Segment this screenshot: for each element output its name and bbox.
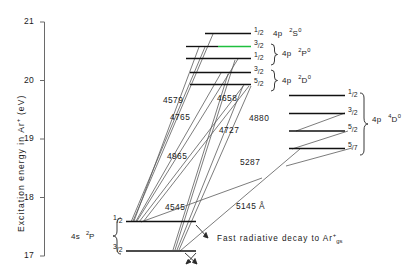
ray-4765 bbox=[134, 47, 199, 221]
group-config-4p-2S0: 4p bbox=[273, 29, 283, 38]
level-label-4p-4D0-1_2: 1/2 bbox=[348, 89, 358, 99]
y-axis-title-unit: (eV) bbox=[16, 95, 26, 115]
ray-4d-b bbox=[292, 131, 348, 149]
group-config-4p-2P0: 4p bbox=[282, 49, 292, 58]
y-tick-label-20: 20 bbox=[24, 76, 34, 85]
wavelength-label-4965: 4965 bbox=[167, 152, 187, 160]
term-sup-right-2S0: 0 bbox=[298, 27, 301, 33]
group-config-4p-4D0: 4p bbox=[372, 115, 382, 124]
group-label-4p-4D0: 4p 4D0 bbox=[372, 114, 401, 124]
wavelength-label-4658: 4658 bbox=[217, 94, 237, 102]
term-sup-right-2D0: 0 bbox=[308, 74, 311, 80]
ray-4579 bbox=[133, 34, 213, 221]
brace-2D0 bbox=[271, 70, 278, 91]
energy-level-diagram: 21 20 19 18 17 Excitation energy in Ar+ … bbox=[0, 0, 412, 274]
level-label-4p-2P0-3_2: 3/2 bbox=[254, 40, 264, 50]
ray-4880 bbox=[139, 85, 244, 222]
level-label-4p-4D0-7_2: 5/7 bbox=[348, 142, 358, 152]
group-label-4p-2D0: 4p 2D0 bbox=[282, 75, 311, 85]
fast-decay-note-text: Fast radiative decay to Ar bbox=[217, 234, 333, 243]
ray-4727 bbox=[137, 59, 238, 221]
fast-decay-note: Fast radiative decay to Ar+gs bbox=[217, 233, 342, 245]
ray-4d-c bbox=[286, 148, 352, 166]
term-sup-right-2P0: 0 bbox=[307, 47, 310, 53]
diagram-canvas bbox=[0, 0, 412, 274]
ray-4545d bbox=[179, 86, 251, 250]
wavelength-label-4727: 4727 bbox=[219, 126, 239, 134]
y-axis-title: Excitation energy in Ar+ (eV) bbox=[14, 95, 26, 232]
decay-arrow-3-head bbox=[186, 260, 191, 265]
level-label-4s-2P-1_2: 1/2 bbox=[113, 215, 123, 225]
ray-4d-a bbox=[296, 113, 345, 131]
group-label-4p-2P0: 4p 2P0 bbox=[282, 48, 310, 58]
ray-long-right bbox=[141, 178, 262, 222]
fast-decay-note-sub: gs bbox=[336, 238, 342, 244]
y-axis bbox=[40, 22, 45, 256]
wavelength-label-5287: 5287 bbox=[240, 158, 260, 166]
y-axis-title-sup: + bbox=[14, 119, 21, 123]
wavelength-label-4765: 4765 bbox=[170, 113, 190, 121]
level-label-4p-4D0-3_2: 3/2 bbox=[348, 107, 358, 117]
level-label-4p-4D0-5_2: 5/2 bbox=[348, 124, 358, 134]
brace-4D0 bbox=[360, 93, 368, 155]
term-sup-right-4D0: 0 bbox=[398, 113, 401, 119]
group-config-4s-2P: 4s bbox=[71, 232, 80, 241]
decay-arrows bbox=[185, 225, 208, 264]
group-label-4s-2P: 4s 2P bbox=[71, 231, 95, 241]
transition-rays bbox=[131, 34, 352, 251]
wavelength-label-5145: 5145 Å bbox=[236, 202, 265, 210]
y-axis-title-text: Excitation energy in Ar bbox=[16, 122, 26, 232]
term-letter-4s2P: P bbox=[89, 232, 95, 241]
wavelength-label-4579: 4579 bbox=[163, 96, 183, 104]
level-label-4p-2S0-1_2: 1/2 bbox=[254, 27, 264, 37]
wavelength-label-4545: 4545 bbox=[165, 203, 185, 211]
level-label-4s-2P-3_2: 3/2 bbox=[113, 244, 123, 254]
group-config-4p-2D0: 4p bbox=[282, 76, 292, 85]
level-label-4p-2P0-1_2: 1/2 bbox=[254, 52, 264, 62]
decay-arrow-2-head bbox=[193, 259, 198, 265]
ray-4965 bbox=[131, 47, 205, 222]
y-tick-label-17: 17 bbox=[24, 251, 34, 260]
y-tick-label-21: 21 bbox=[24, 17, 34, 26]
group-label-4p-2S0: 4p 2S0 bbox=[273, 28, 301, 38]
level-label-4p-2D0-3_2: 3/2 bbox=[254, 66, 264, 76]
wavelength-label-4880: 4880 bbox=[249, 114, 269, 122]
brace-2P0 bbox=[271, 44, 278, 65]
level-label-4p-2D0-5_2: 5/2 bbox=[254, 78, 264, 88]
